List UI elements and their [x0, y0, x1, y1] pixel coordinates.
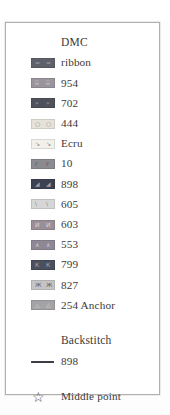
backstitch-header-row: Backstitch — [6, 330, 159, 351]
swatch-cell: ИИ — [31, 220, 61, 230]
legend-row: △△254 Anchor — [6, 295, 159, 315]
corner-triangle-symbol: ◢ — [35, 181, 40, 187]
color-swatch: КК — [31, 260, 55, 270]
backstitch-code-label: 898 — [61, 356, 78, 367]
circle-symbol: ○ — [35, 121, 40, 127]
thread-code-label: ribbon — [61, 57, 91, 68]
cyrillic-i-symbol: И — [46, 222, 51, 228]
legend-row: ==ribbon — [6, 53, 159, 73]
double-chevron-symbol: » — [35, 100, 39, 106]
swatch-cell: ↘↘ — [31, 139, 61, 149]
cyrillic-zhe-symbol: Ж — [35, 282, 41, 288]
cyrillic-i-symbol: И — [35, 222, 40, 228]
thread-code-label: 254 Anchor — [61, 300, 115, 311]
backstitch-header-label: Backstitch — [61, 335, 112, 347]
swatch-cell: ◢◢ — [31, 179, 61, 189]
thread-code-label: 603 — [61, 219, 78, 230]
middle-point-icon-cell: ☆ — [31, 390, 61, 404]
color-swatch: ↘↘ — [31, 139, 55, 149]
legend-row: \\605 — [6, 194, 159, 214]
legend-header-row: DMC — [6, 32, 159, 53]
swatch-cell: гг — [31, 159, 61, 169]
color-swatch: ИИ — [31, 220, 55, 230]
legend-row: гг10 — [6, 154, 159, 174]
equals-symbol: = — [35, 60, 40, 66]
thread-code-label: 954 — [61, 78, 78, 89]
color-swatch: ○○ — [31, 119, 55, 129]
thread-code-label: 898 — [61, 179, 78, 190]
legend-row: ↘↘Ecru — [6, 134, 159, 154]
middle-point-row: ☆ Middle point — [6, 387, 159, 407]
legend-row: КК799 — [6, 255, 159, 275]
legend-row: ◢◢898 — [6, 174, 159, 194]
swatch-cell: \\ — [31, 199, 61, 209]
legend-row: ЖЖ827 — [6, 275, 159, 295]
thread-code-label: 827 — [61, 280, 78, 291]
double-chevron-symbol: » — [46, 100, 50, 106]
swatch-cell: ∧∧ — [31, 240, 61, 250]
backslash-symbol: \ — [46, 201, 48, 207]
legend-row: ⌸⌸954 — [6, 73, 159, 93]
section-spacer-middlepoint — [6, 372, 159, 387]
thread-code-label: 605 — [61, 199, 78, 210]
legend-row: ∧∧553 — [6, 235, 159, 255]
circle-symbol: ○ — [46, 121, 51, 127]
cyrillic-k-symbol: К — [46, 262, 50, 268]
diagonal-arrow-symbol: ↘ — [46, 141, 51, 147]
star-outline-icon: ☆ — [32, 390, 45, 404]
swatch-cell: »» — [31, 98, 61, 108]
color-swatch: ∧∧ — [31, 240, 55, 250]
thread-code-label: 444 — [61, 118, 78, 129]
thread-code-label: Ecru — [61, 138, 83, 149]
caret-symbol: ∧ — [46, 242, 50, 248]
color-swatch: »» — [31, 98, 55, 108]
swatch-cell: ○○ — [31, 119, 61, 129]
color-swatch: △△ — [31, 300, 55, 310]
thread-code-label: 702 — [61, 98, 78, 109]
middle-point-label: Middle point — [61, 391, 121, 402]
legend-body: DMC ==ribbon⌸⌸954»»702○○444↘↘Ecruгг10◢◢8… — [6, 23, 159, 407]
legend-row: »»702 — [6, 93, 159, 113]
section-spacer-backstitch — [6, 315, 159, 330]
backstitch-row: 898 — [6, 351, 159, 371]
gamma-symbol: г — [46, 161, 49, 167]
thread-code-label: 553 — [61, 239, 78, 250]
thread-code-label: 10 — [61, 158, 73, 169]
color-swatch: \\ — [31, 199, 55, 209]
swatch-cell: ЖЖ — [31, 280, 61, 290]
dmc-header-label: DMC — [61, 37, 88, 49]
equals-symbol: = — [46, 60, 51, 66]
caret-symbol: ∧ — [35, 242, 39, 248]
grid-symbol: ⌸ — [46, 80, 50, 86]
corner-triangle-symbol: ◢ — [46, 181, 51, 187]
swatch-cell: КК — [31, 260, 61, 270]
triangle-symbol: △ — [46, 302, 51, 308]
backstitch-line-cell — [31, 361, 61, 363]
legend-row: ИИ603 — [6, 215, 159, 235]
cyrillic-k-symbol: К — [35, 262, 39, 268]
grid-symbol: ⌸ — [35, 80, 39, 86]
color-swatch: гг — [31, 159, 55, 169]
swatch-cell: △△ — [31, 300, 61, 310]
color-swatch: ◢◢ — [31, 179, 55, 189]
color-swatch: ЖЖ — [31, 280, 55, 290]
triangle-symbol: △ — [35, 302, 40, 308]
legend-panel: DMC ==ribbon⌸⌸954»»702○○444↘↘Ecruгг10◢◢8… — [5, 22, 160, 395]
legend-row: ○○444 — [6, 114, 159, 134]
swatch-cell: ⌸⌸ — [31, 78, 61, 88]
color-swatch: ⌸⌸ — [31, 78, 55, 88]
thread-color-list: ==ribbon⌸⌸954»»702○○444↘↘Ecruгг10◢◢898\\… — [6, 53, 159, 315]
swatch-cell: == — [31, 58, 61, 68]
backslash-symbol: \ — [35, 201, 37, 207]
backstitch-list: 898 — [6, 351, 159, 371]
diagonal-arrow-symbol: ↘ — [35, 141, 40, 147]
cyrillic-zhe-symbol: Ж — [46, 282, 52, 288]
color-swatch: == — [31, 58, 55, 68]
gamma-symbol: г — [35, 161, 38, 167]
thread-code-label: 799 — [61, 259, 78, 270]
backstitch-line-icon — [31, 361, 54, 363]
